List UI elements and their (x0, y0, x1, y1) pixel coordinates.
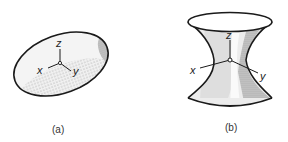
caption-b: (b) (225, 122, 237, 133)
quadric-surfaces-figure: z x y z x y (0, 0, 288, 142)
panel-b-hyperboloid: z x y (188, 13, 272, 107)
ellipsoid-origin (58, 61, 61, 64)
hyperboloid-origin (228, 58, 232, 62)
axis-label-z: z (55, 37, 62, 49)
axis-label-x: x (36, 64, 43, 76)
axis-label-y: y (259, 70, 267, 82)
panel-a-ellipsoid: z x y (5, 20, 122, 121)
axis-label-x: x (189, 64, 196, 76)
caption-a: (a) (52, 124, 64, 135)
axis-label-z: z (225, 29, 232, 41)
